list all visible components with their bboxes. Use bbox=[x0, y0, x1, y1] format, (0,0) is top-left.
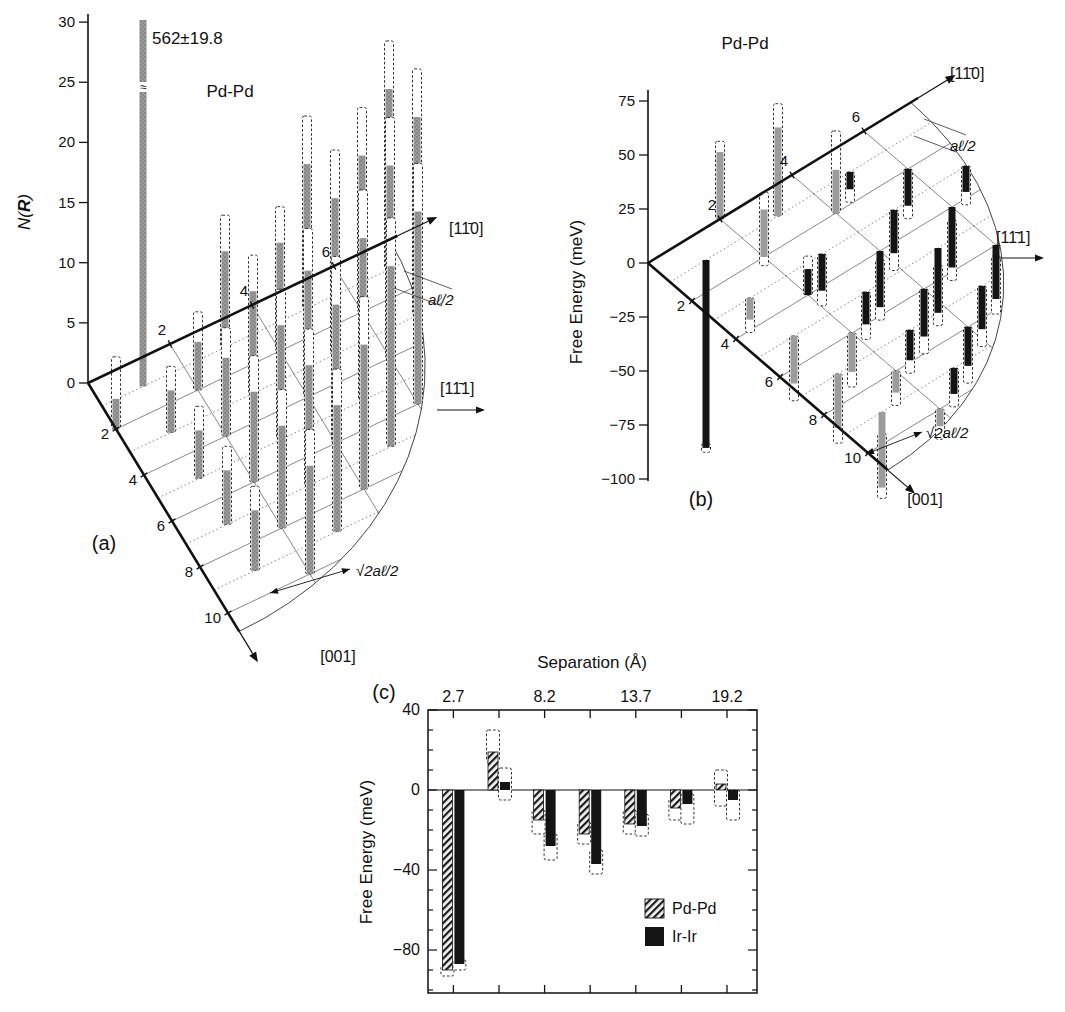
bar bbox=[717, 152, 724, 219]
annotation-sqrt2-a-half: √2aℓ/2 bbox=[356, 562, 399, 579]
bar bbox=[891, 210, 898, 253]
bar-Pd-Pd bbox=[716, 784, 726, 790]
y-tick-label: −75 bbox=[610, 416, 635, 433]
figure: ≈562±19.8246246810051015202530N(R)Pd-Pd(… bbox=[0, 0, 1065, 1012]
down-axis-tick-label: 2 bbox=[101, 425, 109, 442]
panel-letter: (a) bbox=[92, 532, 116, 554]
legend-swatch-hatched bbox=[645, 899, 664, 918]
bar-Pd-Pd bbox=[488, 752, 498, 790]
line bbox=[866, 432, 922, 454]
bar bbox=[921, 289, 928, 337]
bar bbox=[863, 292, 870, 324]
panel-letter: (b) bbox=[689, 488, 713, 510]
y-axis-title: N(R) bbox=[15, 194, 34, 230]
y-tick-label: 25 bbox=[618, 200, 635, 217]
bar bbox=[415, 212, 422, 404]
y-tick-label: 25 bbox=[58, 73, 75, 90]
y-tick-label: 30 bbox=[58, 13, 75, 30]
peak-bar bbox=[140, 20, 147, 387]
y-tick-label: 40 bbox=[402, 701, 420, 718]
down-axis-tick-label: 10 bbox=[204, 609, 221, 626]
up-axis-tick-label: 6 bbox=[322, 243, 330, 260]
down-axis-tick-label: 8 bbox=[809, 411, 817, 428]
y-tick-label: 0 bbox=[627, 254, 635, 271]
legend-label: Pd-Pd bbox=[672, 900, 716, 917]
down-axis-tick-label: 10 bbox=[844, 449, 861, 466]
bar bbox=[979, 286, 986, 329]
bar bbox=[223, 358, 230, 436]
arrowhead bbox=[1035, 254, 1044, 261]
grid-line bbox=[802, 273, 1003, 396]
down-axis-tick-label: 2 bbox=[677, 297, 685, 314]
up-axis-tick-label: 2 bbox=[708, 196, 716, 213]
annotation-a-half: aℓ/2 bbox=[950, 137, 976, 154]
bar bbox=[251, 392, 258, 482]
bar bbox=[905, 169, 912, 206]
grid-line bbox=[186, 435, 415, 544]
bar bbox=[935, 248, 942, 313]
bar bbox=[775, 127, 782, 216]
down-axis-tick-label: 4 bbox=[129, 471, 137, 488]
x-tick-label: 2.7 bbox=[442, 688, 464, 705]
down-axis-tick-label: 6 bbox=[157, 517, 165, 534]
peak-value-label: 562±19.8 bbox=[152, 29, 223, 48]
x-tick-label: 19.2 bbox=[711, 688, 742, 705]
legend-label: Ir-Ir bbox=[672, 928, 698, 945]
bar-Ir-Ir bbox=[546, 790, 556, 846]
down-axis-tick-label: 4 bbox=[721, 335, 729, 352]
y-tick-label: −40 bbox=[393, 861, 420, 878]
bar bbox=[761, 209, 768, 257]
bar-Ir-Ir bbox=[500, 782, 510, 790]
down-axis-tick-label: 8 bbox=[185, 563, 193, 580]
down-axis-tick-label: 6 bbox=[765, 373, 773, 390]
bar bbox=[819, 254, 826, 291]
arrowhead bbox=[249, 652, 258, 663]
up-axis-tick-label: 4 bbox=[780, 152, 788, 169]
bar bbox=[849, 333, 856, 372]
line bbox=[924, 119, 966, 135]
bar bbox=[879, 412, 886, 488]
annotation-a-half: aℓ/2 bbox=[428, 291, 454, 308]
bar bbox=[951, 368, 958, 394]
bar-Pd-Pd bbox=[625, 790, 635, 824]
bar-Pd-Pd bbox=[442, 790, 452, 970]
panel-letter: (c) bbox=[372, 681, 395, 703]
y-tick-label: 5 bbox=[67, 314, 75, 331]
bar-Ir-Ir bbox=[728, 790, 738, 800]
axis-label-111: [11̄1] bbox=[996, 229, 1030, 246]
y-tick-label: 20 bbox=[58, 133, 75, 150]
up-axis-tick-label: 6 bbox=[852, 108, 860, 125]
x-axis-title: Separation (Å) bbox=[537, 653, 647, 672]
axis-label-111: [11̄1] bbox=[440, 380, 474, 397]
arrowhead bbox=[913, 432, 922, 438]
y-tick-label: 50 bbox=[618, 146, 635, 163]
bar-Pd-Pd bbox=[534, 790, 544, 820]
y-axis-title: Free Energy (meV) bbox=[567, 220, 586, 365]
y-tick-label: −100 bbox=[601, 470, 635, 487]
bar bbox=[877, 251, 884, 307]
grid-line bbox=[334, 266, 421, 409]
bar bbox=[965, 327, 972, 366]
line bbox=[239, 631, 253, 653]
bar bbox=[847, 172, 854, 189]
axis-label-001: [001] bbox=[907, 491, 943, 508]
panel-b-3d-chart: 2462468107550250−25−50−75−100Free Energy… bbox=[567, 34, 1044, 510]
lattice-grid bbox=[102, 263, 425, 613]
bar bbox=[703, 260, 710, 448]
bar bbox=[833, 170, 840, 213]
bar bbox=[224, 470, 231, 524]
bar bbox=[907, 330, 914, 360]
bar-Ir-Ir bbox=[454, 790, 464, 964]
arrowhead bbox=[427, 217, 438, 225]
y-tick-label: 0 bbox=[67, 374, 75, 391]
bar bbox=[747, 298, 754, 320]
axis-break-glyph: ≈ bbox=[140, 80, 147, 94]
bar bbox=[963, 166, 970, 192]
legend-swatch-black bbox=[645, 927, 664, 946]
bar bbox=[279, 426, 286, 528]
bar bbox=[835, 374, 842, 428]
y-tick-label: −25 bbox=[610, 308, 635, 325]
bar bbox=[196, 430, 203, 478]
panel-title: Pd-Pd bbox=[721, 34, 768, 53]
bar bbox=[805, 269, 812, 295]
